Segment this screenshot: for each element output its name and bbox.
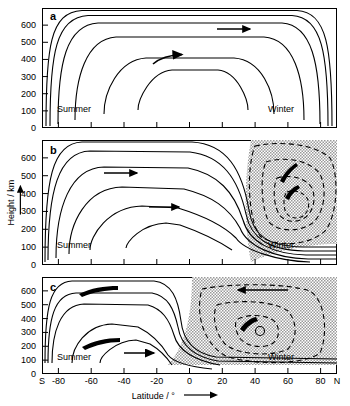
figure-canvas: 600 500 400 300 200 100 0 xyxy=(0,0,350,406)
y-tick-label: 100 xyxy=(21,243,36,252)
x-axis-title-text: Latitude / ° xyxy=(132,391,175,401)
y-tick-label: 200 xyxy=(21,342,36,351)
y-tick-label: 0 xyxy=(31,124,36,133)
up-arrow-icon xyxy=(17,185,27,215)
y-tick-label: 500 xyxy=(21,300,36,309)
x-tick-label: 20 xyxy=(217,376,227,386)
y-tick-label: 100 xyxy=(21,106,36,115)
y-tick-label: 600 xyxy=(21,21,36,30)
panel-label-c: c xyxy=(50,281,56,293)
x-tick-label: -20 xyxy=(150,376,163,386)
x-tick-label: -60 xyxy=(85,376,98,386)
y-tick-label: 0 xyxy=(31,261,36,270)
panel-label-a: a xyxy=(50,10,56,22)
x-tick-label: 0 xyxy=(187,376,192,386)
x-tick-label-s: S xyxy=(39,376,45,386)
season-label-summer-c: Summer xyxy=(57,352,91,362)
x-tick-label: 40 xyxy=(250,376,260,386)
season-label-summer-a: Summer xyxy=(57,104,91,114)
x-tick-label-n: N xyxy=(334,376,341,386)
x-tick-label: 60 xyxy=(283,376,293,386)
season-label-winter-a: Winter xyxy=(268,104,294,114)
y-tick-label: 300 xyxy=(21,72,36,81)
y-tick-label: 600 xyxy=(21,286,36,295)
y-tick-label: 400 xyxy=(21,314,36,323)
y-axis-labels-panel-c: 600 500 400 300 200 100 0 xyxy=(0,277,40,374)
y-tick-label: 100 xyxy=(21,356,36,365)
x-tick-label: 80 xyxy=(316,376,326,386)
y-axis-labels-panel-a: 600 500 400 300 200 100 0 xyxy=(0,8,40,128)
y-tick-label: 500 xyxy=(21,38,36,47)
x-axis-title: Latitude / ° xyxy=(0,390,350,401)
y-tick-label: 300 xyxy=(21,328,36,337)
season-label-winter-c: Winter xyxy=(268,352,294,362)
y-tick-label: 200 xyxy=(21,89,36,98)
x-axis-tick-labels: S -80 -60 -40 -20 0 20 40 60 80 N xyxy=(0,376,350,388)
y-tick-label: 400 xyxy=(21,55,36,64)
y-axis-title: Height / km xyxy=(5,163,26,243)
right-arrow-icon xyxy=(184,391,218,401)
panel-label-b: b xyxy=(50,144,57,156)
season-label-winter-b: Winter xyxy=(268,240,294,250)
season-label-summer-b: Summer xyxy=(57,240,91,250)
x-tick-label: -80 xyxy=(52,376,65,386)
x-tick-label: -40 xyxy=(117,376,130,386)
y-tick-label: 600 xyxy=(21,153,36,162)
y-axis-title-text: Height / km xyxy=(6,180,16,226)
